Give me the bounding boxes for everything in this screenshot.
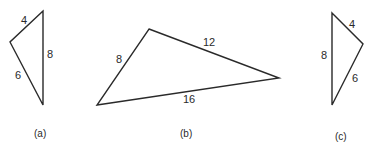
side-label-b-bottom: 16 [183, 93, 195, 105]
side-label-a-right: 8 [47, 48, 53, 60]
caption-a: (a) [34, 128, 46, 139]
triangle-c [332, 13, 363, 105]
side-label-b-left: 8 [116, 53, 122, 65]
side-label-c-top: 4 [349, 18, 355, 30]
triangle-c-group: 4 8 6 (c) [321, 13, 363, 142]
side-label-a-bottom: 6 [15, 69, 21, 81]
caption-c: (c) [335, 131, 347, 142]
side-label-b-top: 12 [203, 36, 215, 48]
side-label-c-left: 8 [321, 49, 327, 61]
side-label-c-bottom: 6 [352, 72, 358, 84]
triangle-a-group: 4 8 6 (a) [10, 11, 53, 139]
triangles-diagram: 4 8 6 (a) 8 12 16 (b) 4 8 6 (c) [0, 0, 373, 152]
side-label-a-top: 4 [21, 14, 27, 26]
caption-b: (b) [180, 128, 192, 139]
triangle-b-group: 8 12 16 (b) [97, 29, 279, 139]
